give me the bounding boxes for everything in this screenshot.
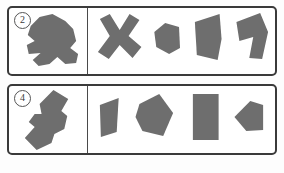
option-shape-seven-elbow[interactable] [236, 13, 268, 59]
option-shape-slanted-quadrilateral[interactable] [100, 98, 119, 137]
option-shape-small-house-pentagon[interactable] [234, 101, 263, 131]
item-number-badge: 2 [14, 12, 31, 29]
test-item-row[interactable]: 2 [7, 6, 277, 76]
options-cell [88, 86, 275, 153]
options-cell [88, 8, 275, 74]
prompt-cell: 2 [9, 8, 88, 74]
option-shape-wide-pentagon[interactable] [135, 94, 173, 136]
option-shape-small-pentagon[interactable] [154, 23, 180, 54]
option-shape-large-triangle-quad[interactable] [195, 14, 222, 60]
option-shape-x-cross[interactable] [98, 14, 142, 59]
prompt-cell: 4 [9, 86, 88, 153]
test-sheet: 2 [0, 0, 284, 173]
test-item-row[interactable]: 4 [7, 84, 277, 155]
option-shape-upright-rectangle[interactable] [193, 94, 219, 140]
item-number-badge: 4 [14, 90, 31, 107]
option-shapes-group [88, 8, 275, 74]
option-shapes-group [88, 86, 275, 153]
